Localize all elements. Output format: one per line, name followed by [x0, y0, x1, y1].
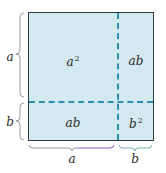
horizontal-dashed-divider: [29, 101, 153, 103]
left-brace-a: [16, 13, 24, 97]
binomial-square-diagram: a b a b a2 ab ab b2: [0, 0, 166, 173]
region-a-squared-exponent: 2: [75, 54, 80, 63]
left-label-a: a: [6, 50, 13, 64]
bottom-label-b: b: [131, 152, 139, 166]
region-a-squared-base: a: [66, 55, 73, 69]
region-a-squared: a2: [66, 54, 79, 69]
region-ab-top: ab: [129, 54, 144, 68]
left-brace-b: [16, 103, 24, 140]
region-b-squared-exponent: 2: [138, 116, 143, 125]
bottom-label-a: a: [68, 152, 75, 166]
region-ab-bottom: ab: [66, 116, 81, 130]
vertical-dashed-divider: [117, 13, 119, 140]
outer-square: a2 ab ab b2: [28, 12, 154, 141]
region-b-squared-base: b: [129, 117, 137, 131]
bottom-brace-b: [119, 145, 152, 151]
bottom-brace-a: [29, 145, 114, 151]
region-b-squared: b2: [129, 116, 143, 131]
left-label-b: b: [6, 115, 14, 129]
